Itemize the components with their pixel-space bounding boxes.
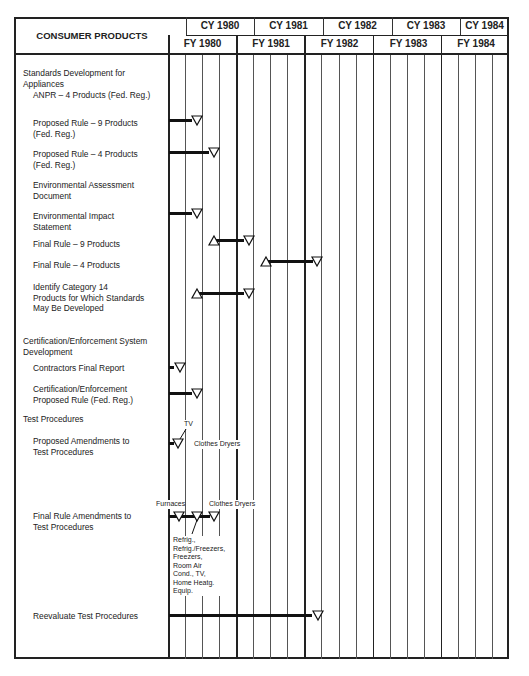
row-label-env-impact: Environmental Impact Statement (33, 211, 114, 232)
row-label-reevaluate: Reevaluate Test Procedures (33, 611, 138, 622)
quarter-divider (339, 55, 340, 659)
cy-1980: CY 1980 (186, 17, 254, 35)
quarter-divider (424, 55, 425, 659)
start-triangle-icon (208, 235, 220, 246)
row-label-proposed-amend: Proposed Amendments to Test Procedures (33, 436, 129, 457)
pointer-arrow-icon (190, 520, 200, 536)
completion-triangle-icon (312, 610, 324, 621)
quarter-divider (253, 55, 254, 659)
bar-reevaluate (169, 614, 312, 617)
cy-1984: CY 1984 (460, 17, 509, 35)
fiscal-year-divider (236, 35, 238, 659)
fy-1984: FY 1984 (443, 35, 509, 53)
completion-triangle-icon (208, 147, 220, 158)
fy-1982: FY 1982 (305, 35, 374, 53)
bar-cert-proposed (169, 392, 192, 395)
start-triangle-icon (191, 288, 203, 299)
fiscal-year-divider (304, 35, 306, 659)
annotation-clothes-dryers-final: Clothes Dryers (209, 500, 255, 509)
fiscal-year-divider (373, 35, 375, 659)
completion-triangle-icon (243, 288, 255, 299)
table-title: CONSUMER PRODUCTS (16, 27, 168, 45)
quarter-divider (270, 55, 271, 659)
quarter-divider (492, 55, 493, 659)
fiscal-year-divider (168, 35, 170, 659)
row-label-final-amend: Final Rule Amendments to Test Procedures (33, 511, 131, 532)
row-label-cert-proposed: Certification/Enforcement Proposed Rule … (33, 384, 133, 405)
row-label-category-14: Identify Category 14 Products for Which … (33, 282, 144, 314)
completion-triangle-icon (243, 235, 255, 246)
bar-env-impact (169, 212, 192, 215)
cy-1983: CY 1983 (392, 17, 460, 35)
bar-final-4 (268, 260, 313, 263)
completion-triangle-icon (191, 115, 203, 126)
quarter-divider (356, 55, 357, 659)
bar-proposed-4 (169, 151, 209, 154)
start-triangle-icon (260, 256, 272, 267)
row-label-final-9: Final Rule – 9 Products (33, 239, 120, 250)
quarter-divider (407, 55, 408, 659)
completion-triangle-icon (311, 256, 323, 267)
row-label-contractors: Contractors Final Report (33, 363, 124, 374)
fy-1983: FY 1983 (374, 35, 443, 53)
quarter-divider (390, 55, 391, 659)
bar-category-14 (199, 292, 244, 295)
quarter-divider (321, 55, 322, 659)
fy-1981: FY 1981 (237, 35, 305, 53)
row-label-test-procedures: Test Procedures (23, 414, 84, 425)
bar-proposed-9 (169, 119, 192, 122)
annotation-clothes-dryers: Clothes Dryers (194, 440, 240, 449)
pointer-arrow-icon (178, 429, 188, 441)
fiscal-year-divider (441, 35, 443, 659)
row-label-standards-dev: Standards Development for Appliances (23, 68, 125, 89)
quarter-divider (458, 55, 459, 659)
annotation-tv: TV (184, 420, 193, 429)
completion-triangle-icon (191, 388, 203, 399)
completion-triangle-icon (191, 208, 203, 219)
quarter-divider (287, 55, 288, 659)
annotation-furnaces: Furnaces (156, 500, 185, 509)
header-divider-fy (14, 53, 509, 55)
row-label-cert-system: Certification/Enforcement System Develop… (23, 336, 147, 357)
row-label-proposed-4: Proposed Rule – 4 Products (Fed. Reg.) (33, 149, 138, 170)
row-label-anpr: ANPR – 4 Products (Fed. Reg.) (33, 90, 150, 101)
cy-1982: CY 1982 (323, 17, 392, 35)
completion-triangle-icon (174, 362, 186, 373)
completion-triangle-icon (173, 511, 185, 522)
completion-triangle-icon (208, 511, 220, 522)
fy-1980: FY 1980 (168, 35, 237, 53)
row-label-final-4: Final Rule – 4 Products (33, 260, 120, 271)
row-label-proposed-9: Proposed Rule – 9 Products (Fed. Reg.) (33, 118, 138, 139)
annotation-refrig-list: Refrig., Refrig./Freezers, Freezers, Roo… (173, 536, 225, 596)
row-label-env-assessment: Environmental Assessment Document (33, 180, 134, 201)
quarter-divider (475, 55, 476, 659)
cy-1981: CY 1981 (254, 17, 323, 35)
bar-final-9 (216, 239, 244, 242)
